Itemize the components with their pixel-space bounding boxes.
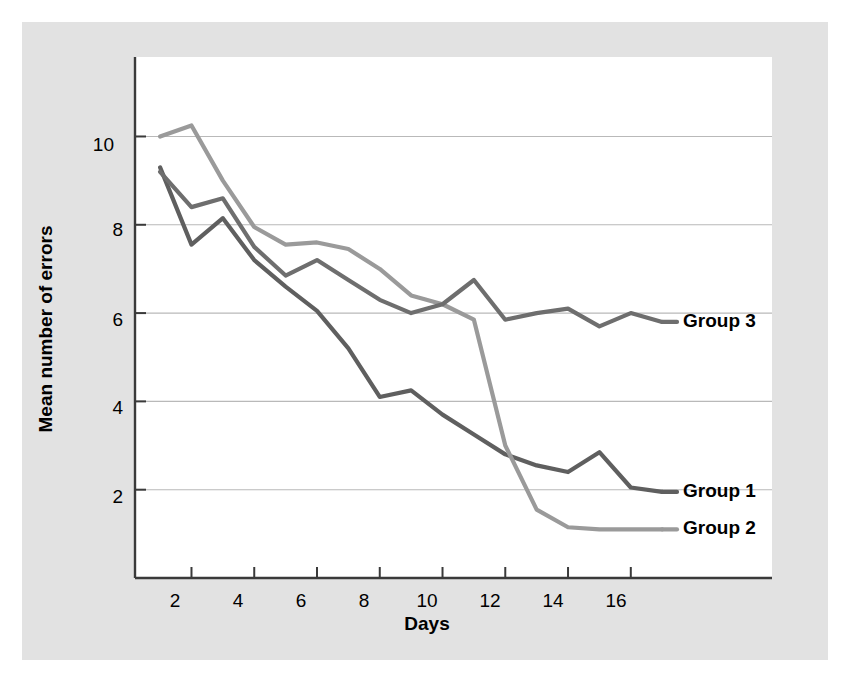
series-label-group-3: Group 3 (683, 310, 756, 332)
data-series-lines (160, 125, 662, 529)
axis-lines (135, 57, 772, 578)
y-tick-label-6: 6 (83, 309, 123, 331)
y-tick-label-10: 10 (74, 134, 114, 156)
x-tick-label-16: 16 (596, 590, 636, 612)
x-tick-label-2: 2 (155, 590, 195, 612)
x-tick-label-12: 12 (470, 590, 510, 612)
series-label-leader-lines (662, 322, 677, 530)
figure-container: Mean number of errors Days 2 4 6 8 10 12… (0, 0, 854, 692)
y-tick-label-4: 4 (83, 397, 123, 419)
x-tick-label-4: 4 (218, 590, 258, 612)
x-tick-label-14: 14 (533, 590, 573, 612)
x-axis-tick-marks (191, 567, 630, 578)
y-tick-label-2: 2 (83, 486, 123, 508)
x-axis-title: Days (0, 613, 854, 635)
series-label-group-1: Group 1 (683, 480, 756, 502)
y-axis-title: Mean number of errors (35, 219, 57, 439)
y-tick-label-8: 8 (83, 219, 123, 241)
y-axis-tick-marks (135, 136, 146, 489)
x-tick-label-8: 8 (344, 590, 384, 612)
x-tick-label-6: 6 (281, 590, 321, 612)
series-label-group-2: Group 2 (683, 517, 756, 539)
line-chart (0, 0, 854, 692)
x-tick-label-10: 10 (407, 590, 447, 612)
